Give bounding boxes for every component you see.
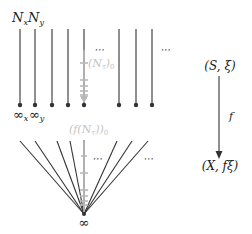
label-nx: Nx xyxy=(11,10,28,27)
diagram-canvas: Nx Ny ∞x ∞y (Nτ)0 ⋯ ⋯ (f(Nτ))0 ⋯ ⋯ xyxy=(0,0,252,234)
label-inf-x: ∞x xyxy=(13,107,29,123)
stalk-arrowhead-top xyxy=(80,96,88,103)
fan-line-1 xyxy=(20,141,84,214)
stalk-overlay-bottom xyxy=(80,140,88,212)
label-fan-infinity: ∞ xyxy=(79,215,90,230)
fan-line-7 xyxy=(84,141,132,214)
ellipsis-bottom-1: ⋯ xyxy=(92,153,102,164)
label-target: (X, fξ) xyxy=(202,159,239,173)
dot-7 xyxy=(134,103,138,107)
dot-tau xyxy=(82,103,86,107)
label-pushforward-stalk: (f(Nτ))0 xyxy=(69,123,108,137)
label-inf-y: ∞y xyxy=(29,107,45,123)
map-arrowhead xyxy=(216,151,223,159)
ellipsis-top-2: ⋯ xyxy=(160,44,170,55)
dot-3 xyxy=(50,103,54,107)
label-ny: Ny xyxy=(27,10,44,27)
dot-6 xyxy=(117,103,121,107)
fan-line-3 xyxy=(57,141,84,214)
ellipsis-top-1: ⋯ xyxy=(94,44,104,55)
label-stalk: (Nτ)0 xyxy=(88,57,115,71)
stalk-overlay-top xyxy=(80,50,88,102)
dot-8 xyxy=(150,103,154,107)
fan-line-8 xyxy=(84,141,148,214)
label-map-f: f xyxy=(228,110,235,123)
fan-line-6 xyxy=(84,141,117,214)
label-source: (S, ξ) xyxy=(204,59,236,73)
parallel-lines-group xyxy=(20,29,152,104)
dot-4 xyxy=(66,103,70,107)
ellipsis-bottom-2: ⋯ xyxy=(143,153,153,164)
